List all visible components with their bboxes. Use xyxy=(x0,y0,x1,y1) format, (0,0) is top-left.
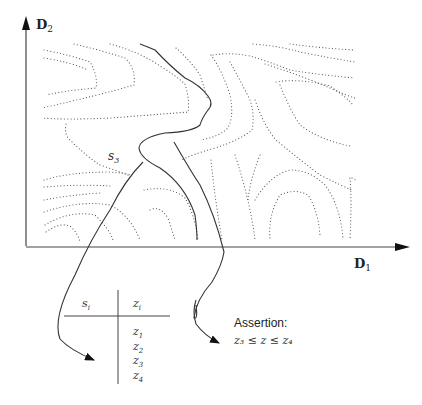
table-row-z2: z2 xyxy=(132,340,144,355)
x-axis-label: D1 xyxy=(354,256,371,273)
assertion-formula: z₃ ≤ z ≤ z₄ xyxy=(233,334,293,347)
assertion-curve xyxy=(174,142,224,318)
boundary-curve xyxy=(139,44,211,240)
y-axis-label: D2 xyxy=(36,17,53,34)
contour-lines-right xyxy=(176,44,357,240)
axes xyxy=(22,16,410,251)
table-arrow xyxy=(58,162,143,360)
y-axis-arrow-icon xyxy=(22,16,30,30)
table-header-si: si xyxy=(82,297,90,312)
table-header-zi: zi xyxy=(132,297,141,312)
assertion-arrow xyxy=(194,300,219,343)
diagram-canvas: D2 D1 xyxy=(0,0,422,405)
mapping-table: si zi z1 z2 z3 z4 xyxy=(64,290,170,384)
table-row-z4: z4 xyxy=(132,369,143,384)
table-row-z1: z1 xyxy=(132,325,143,340)
assertion-title: Assertion: xyxy=(234,316,287,330)
table-row-z3: z3 xyxy=(132,354,144,369)
x-axis-arrow-icon xyxy=(395,243,410,251)
region-label: s3 xyxy=(108,149,119,165)
